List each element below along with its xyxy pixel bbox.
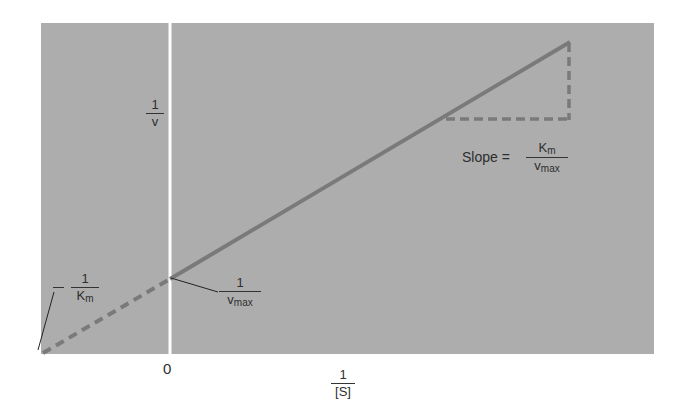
fraction-bar — [219, 291, 261, 292]
km-main: K — [76, 288, 85, 303]
lineweaver-burk-plot — [0, 0, 678, 407]
y-axis-label: 1 v — [146, 98, 164, 129]
plot-area — [41, 23, 654, 354]
x-intercept-num: 1 — [81, 272, 88, 286]
slope-den: vmax — [534, 159, 559, 174]
x-intercept-den: Km — [76, 289, 93, 304]
km-sub: m — [547, 145, 555, 156]
slope-fraction: Km vmax — [526, 141, 568, 174]
fraction-bar — [526, 157, 568, 158]
origin-label: 0 — [163, 361, 171, 376]
x-axis-label: 1 [S] — [331, 368, 355, 399]
km-main: K — [538, 140, 547, 155]
x-intercept-minus-sign — [53, 287, 64, 288]
x-axis-label-den: [S] — [335, 385, 351, 399]
v-main: v — [227, 292, 234, 307]
vmax-sub: max — [234, 297, 253, 308]
y-intercept-num: 1 — [236, 276, 243, 290]
y-intercept-label: 1 vmax — [219, 276, 261, 308]
km-sub: m — [85, 293, 93, 304]
vmax-sub: max — [541, 163, 560, 174]
x-axis-label-num: 1 — [339, 368, 346, 382]
y-axis-label-num: 1 — [151, 98, 158, 112]
slope-label-prefix: Slope = — [462, 150, 510, 164]
y-axis-label-den: v — [152, 115, 159, 129]
x-intercept-label: 1 Km — [71, 272, 99, 304]
y-intercept-den: vmax — [227, 293, 252, 308]
slope-num: Km — [538, 141, 555, 156]
v-main: v — [534, 158, 541, 173]
